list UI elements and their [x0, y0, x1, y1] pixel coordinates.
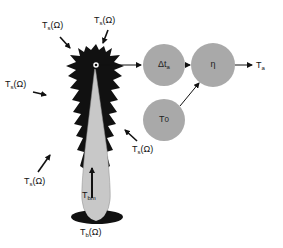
diagram-canvas — [0, 0, 283, 248]
t0-to-eta-arrow — [180, 83, 199, 106]
label-t-a-output: Ta — [256, 60, 265, 73]
incident-arrow-top-right — [103, 30, 108, 43]
antenna-temperature-diagram: Ts(Ω) Ts(Ω) Ts(Ω) Ts(Ω) Ts(Ω) Tbm Tb(Ω) … — [0, 0, 283, 248]
node-label-t0: T0 — [150, 114, 178, 124]
label-ts-top-right: Ts(Ω) — [94, 15, 115, 28]
incident-arrow-right — [125, 130, 137, 141]
label-ts-right: Ts(Ω) — [132, 144, 153, 157]
incident-arrow-bottom-left — [38, 155, 50, 172]
label-ts-bottom-left: Ts(Ω) — [24, 176, 45, 189]
label-t-b: Tb(Ω) — [80, 227, 102, 240]
incident-arrow-top-left — [60, 37, 70, 48]
node-label-delta-ta: Δta — [150, 59, 178, 70]
node-label-eta: η — [199, 59, 227, 69]
label-t-bm: Tbm — [82, 190, 96, 203]
label-ts-top-left: Ts(Ω) — [42, 20, 63, 33]
feed-point-center — [95, 64, 98, 67]
label-ts-left: Ts(Ω) — [5, 79, 26, 92]
incident-arrow-left — [33, 92, 46, 95]
